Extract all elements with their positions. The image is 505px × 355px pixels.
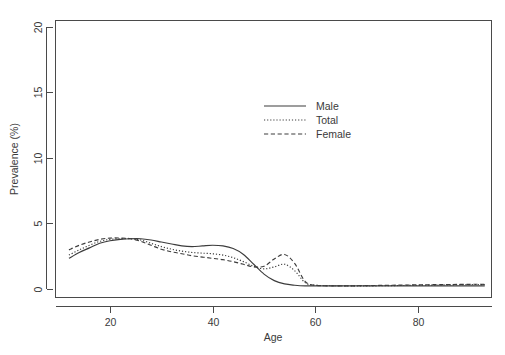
plot-canvas: 05101520 Prevalence (%) 20406080 Age Mal… (0, 0, 505, 355)
y-tick-label: 10 (32, 153, 44, 165)
legend-label-male: Male (316, 100, 339, 112)
y-tick-labels: 05101520 (32, 22, 44, 293)
series-line-female (69, 238, 485, 286)
plot-frame (56, 21, 492, 298)
y-tick-label: 20 (32, 22, 44, 34)
x-tick-label: 40 (208, 316, 220, 328)
x-tick-label: 80 (413, 316, 425, 328)
data-series-group (69, 238, 485, 286)
x-tick-labels: 20406080 (105, 316, 425, 328)
y-tick-label: 5 (32, 220, 44, 226)
legend-label-female: Female (316, 128, 351, 140)
y-axis-title: Prevalence (%) (8, 123, 20, 195)
legend-label-total: Total (316, 114, 338, 126)
x-tick-label: 20 (105, 316, 117, 328)
y-tick-label: 15 (32, 87, 44, 99)
series-line-male (69, 239, 485, 286)
prevalence-by-age-chart: 05101520 Prevalence (%) 20406080 Age Mal… (0, 0, 505, 355)
y-axis: 05101520 Prevalence (%) (8, 22, 53, 293)
chart-legend: MaleTotalFemale (264, 100, 351, 140)
y-tick-label: 0 (32, 286, 44, 292)
y-tick-marks (47, 28, 53, 290)
x-axis-title: Age (264, 331, 283, 343)
x-axis: 20406080 Age (56, 307, 492, 344)
series-line-total (69, 239, 485, 286)
x-tick-marks (111, 307, 419, 313)
x-tick-label: 60 (310, 316, 322, 328)
